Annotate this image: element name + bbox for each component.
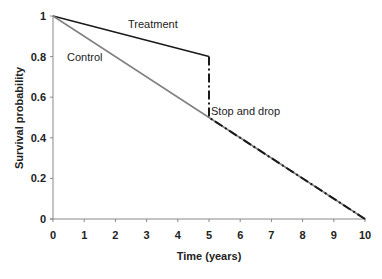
annotation-treatment: Treatment — [128, 18, 178, 30]
x-tick-label: 4 — [175, 229, 182, 241]
x-tick-label: 10 — [359, 229, 371, 241]
x-tick-label: 8 — [300, 229, 306, 241]
y-tick-label: 0.4 — [31, 132, 47, 144]
y-ticks: 00.20.40.60.81 — [31, 10, 53, 225]
x-tick-label: 1 — [81, 229, 87, 241]
x-tick-label: 7 — [268, 229, 274, 241]
x-tick-label: 9 — [331, 229, 337, 241]
y-tick-label: 0.2 — [31, 172, 46, 184]
x-tick-label: 6 — [237, 229, 243, 241]
x-tick-label: 5 — [206, 229, 212, 241]
y-tick-label: 0 — [40, 213, 46, 225]
survival-chart: 00.20.40.60.81 012345678910 Treatment Co… — [0, 0, 382, 279]
x-tick-label: 2 — [112, 229, 118, 241]
x-tick-label: 0 — [50, 229, 56, 241]
y-tick-label: 0.8 — [31, 51, 46, 63]
x-ticks: 012345678910 — [50, 219, 371, 241]
annotation-control: Control — [67, 51, 102, 63]
y-tick-label: 1 — [40, 10, 46, 22]
x-tick-label: 3 — [144, 229, 150, 241]
annotation-stop-and-drop: Stop and drop — [211, 105, 280, 117]
plot-series — [53, 16, 365, 219]
series-stop-and-drop — [209, 57, 365, 219]
y-axis-title: Survival probability — [13, 66, 25, 169]
x-axis-title: Time (years) — [177, 250, 242, 262]
y-tick-label: 0.6 — [31, 91, 46, 103]
